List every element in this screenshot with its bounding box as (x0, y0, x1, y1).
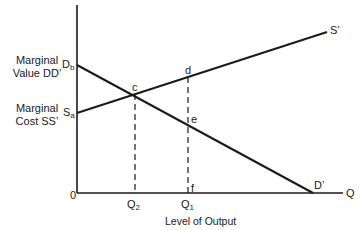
supply-intercept-label: Sa (63, 106, 75, 119)
marginal-cost-label: Marginal Cost SS’ (8, 102, 66, 128)
q2-label: Q2 (127, 198, 140, 211)
demand-intercept-label: Db (62, 58, 74, 71)
point-d-label: d (185, 64, 191, 77)
supply-curve (77, 32, 327, 113)
marginal-cost-line2: Cost SS’ (8, 115, 66, 128)
supply-end-label: S’ (330, 24, 340, 37)
x-axis-title: Level of Output (165, 215, 236, 228)
x-axis-end-label: Q (346, 187, 355, 200)
point-c-label: c (132, 81, 138, 94)
point-e-label: e (191, 113, 197, 126)
marginal-value-label: Marginal Value DD’ (8, 54, 66, 80)
marginal-cost-line1: Marginal (8, 102, 66, 115)
demand-curve (77, 65, 313, 193)
origin-label: 0 (70, 189, 76, 202)
demand-end-label: D’ (314, 179, 324, 192)
q1-label: Q1 (181, 198, 194, 211)
marginal-value-line2: Value DD’ (8, 67, 66, 80)
marginal-value-line1: Marginal (8, 54, 66, 67)
point-f-label: f (191, 182, 194, 195)
